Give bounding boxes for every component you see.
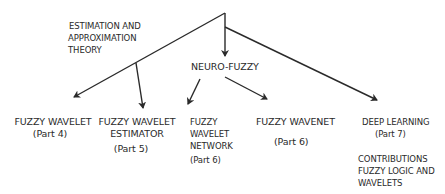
node-fuzzy-wavelet-estimator: FUZZY WAVELET ESTIMATOR (Part 5) <box>97 116 177 155</box>
node-title: FUZZY WAVENET <box>256 116 335 128</box>
node-title: DEEP LEARNING <box>362 116 429 128</box>
diagram-canvas: ESTIMATION AND APPROXIMATION THEORY NEUR… <box>0 0 445 194</box>
neuro-fuzzy-label: NEURO-FUZZY <box>191 61 259 73</box>
edge-neuro-fuzzy-to-network <box>188 79 200 104</box>
node-part: (Part 4) <box>13 128 93 140</box>
edge-neuro-fuzzy-to-wavenet <box>225 77 267 99</box>
note-line-1: CONTRIBUTIONS <box>358 153 435 165</box>
node-part: (Part 7) <box>375 128 429 140</box>
node-fuzzy-wavelet: FUZZY WAVELET (Part 4) <box>13 116 93 140</box>
node-part: (Part 6) <box>190 154 233 166</box>
contributions-note: CONTRIBUTIONS FUZZY LOGIC AND WAVELETS <box>358 153 435 189</box>
estimation-theory-label: ESTIMATION AND APPROXIMATION THEORY <box>68 20 141 56</box>
node-title-line-1: FUZZY <box>190 116 233 128</box>
node-title-line-1: FUZZY WAVELET <box>97 116 177 128</box>
node-fuzzy-wavelet-network: FUZZY WAVELET NETWORK (Part 6) <box>190 116 233 166</box>
node-part: (Part 6) <box>274 136 335 148</box>
edge-branch-to-estimator <box>136 63 143 108</box>
note-line-2: FUZZY LOGIC AND <box>358 165 435 177</box>
node-title-line-3: NETWORK <box>190 140 233 152</box>
estimation-line-3: THEORY <box>68 44 141 56</box>
node-part: (Part 5) <box>97 143 177 155</box>
node-title-line-2: ESTIMATOR <box>97 128 177 140</box>
note-line-3: WAVELETS <box>358 177 435 189</box>
estimation-line-1: ESTIMATION AND <box>69 20 141 32</box>
node-title-line-2: WAVELET <box>190 128 233 140</box>
node-fuzzy-wavenet: FUZZY WAVENET (Part 6) <box>256 116 335 148</box>
node-deep-learning: DEEP LEARNING (Part 7) <box>362 116 429 140</box>
estimation-line-2: APPROXIMATION <box>68 32 141 44</box>
node-title: FUZZY WAVELET <box>13 116 93 128</box>
